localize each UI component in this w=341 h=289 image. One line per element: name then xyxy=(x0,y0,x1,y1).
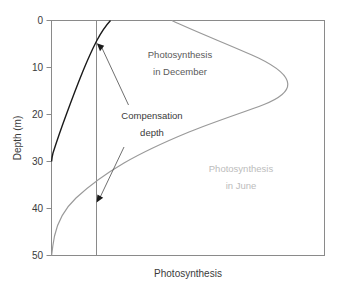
june-annotation: Photosynthesis in June xyxy=(209,163,274,191)
june-label-line2: in June xyxy=(226,180,257,191)
compensation-leader-lower xyxy=(100,147,124,198)
y-tick-label-40: 40 xyxy=(32,203,44,214)
december-label-line1: Photosynthesis xyxy=(148,49,213,60)
compensation-arrowhead-lower xyxy=(97,195,104,203)
y-tick-label-0: 0 xyxy=(37,15,43,26)
photosynthesis-depth-chart: 0 10 20 30 40 50 Depth (m) Photosynthesi… xyxy=(0,0,341,289)
y-axis-ticks xyxy=(47,21,52,256)
y-tick-label-20: 20 xyxy=(32,109,44,120)
x-axis-title: Photosynthesis xyxy=(154,268,222,279)
december-label-line2: in December xyxy=(153,66,207,77)
y-tick-label-10: 10 xyxy=(32,62,44,73)
december-annotation: Photosynthesis in December xyxy=(148,49,213,77)
compensation-label-line2: depth xyxy=(140,127,164,138)
june-label-line1: Photosynthesis xyxy=(209,163,274,174)
y-tick-label-30: 30 xyxy=(32,156,44,167)
compensation-label-line1: Compensation xyxy=(121,110,182,121)
y-tick-label-50: 50 xyxy=(32,250,44,261)
compensation-leader-upper xyxy=(102,47,129,105)
december-photosynthesis-curve xyxy=(52,21,111,162)
y-axis-tick-labels: 0 10 20 30 40 50 xyxy=(32,15,44,261)
y-axis-title: Depth (m) xyxy=(12,116,23,160)
